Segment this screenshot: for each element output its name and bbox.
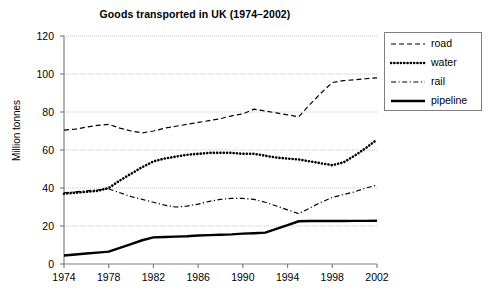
legend-swatch-pipeline-icon [390, 95, 426, 107]
legend-label-water: water [431, 57, 457, 68]
legend-item-road[interactable]: road [385, 34, 483, 53]
legend-item-water[interactable]: water [385, 53, 483, 72]
legend-label-road: road [431, 38, 452, 49]
legend-swatch-water-icon [390, 57, 426, 69]
series-line-water [64, 140, 377, 194]
legend-label-rail: rail [431, 76, 445, 87]
series-line-road [64, 78, 377, 133]
legend-item-pipeline[interactable]: pipeline [385, 91, 483, 110]
chart-legend: roadwaterrailpipeline [384, 32, 482, 111]
legend-swatch-road-icon [390, 38, 426, 50]
series-line-rail [64, 185, 377, 214]
legend-label-pipeline: pipeline [431, 95, 467, 106]
line-chart: Goods transported in UK (1974–2002) Mill… [0, 0, 496, 301]
legend-swatch-rail-icon [390, 76, 426, 88]
legend-item-rail[interactable]: rail [385, 72, 483, 91]
